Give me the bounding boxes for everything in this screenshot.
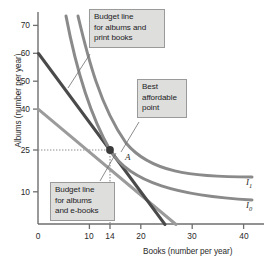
curve-label-i0-sub: 0 bbox=[249, 205, 252, 212]
x-tick-label-0: 0 bbox=[28, 231, 48, 241]
x-tick-label-30: 30 bbox=[182, 231, 202, 241]
callout-best-line3: point bbox=[142, 103, 183, 114]
x-tick-label-14: 14 bbox=[100, 231, 120, 241]
callout-ebooks-line1: Budget line bbox=[55, 185, 111, 196]
callout-print-line2: for albums and bbox=[94, 23, 161, 34]
x-tick-label-40: 40 bbox=[234, 231, 254, 241]
x-tick-label-10: 10 bbox=[79, 231, 99, 241]
leader-print-books bbox=[68, 54, 90, 88]
leader-ebooks bbox=[100, 153, 116, 181]
point-label-a: A bbox=[125, 152, 131, 162]
callout-budget-line-print-books: Budget line for albums and print books bbox=[89, 9, 165, 48]
callout-budget-line-ebooks: Budget line for albums and e-books bbox=[50, 182, 115, 221]
callout-best-line1: Best bbox=[142, 82, 183, 93]
callout-ebooks-line3: and e-books bbox=[55, 206, 111, 217]
callout-print-line1: Budget line bbox=[94, 12, 161, 23]
callout-ebooks-line2: for albums bbox=[55, 196, 111, 207]
callout-best-affordable-point: Best affordable point bbox=[137, 79, 187, 118]
callout-print-line3: print books bbox=[94, 33, 161, 44]
callout-best-line2: affordable bbox=[142, 93, 183, 104]
curve-label-i1: I1 bbox=[246, 177, 252, 189]
curve-label-i0: I0 bbox=[246, 200, 252, 212]
indifference-curve-figure: 70 60 50 40 25 10 0 10 14 20 30 40 Album… bbox=[0, 0, 273, 266]
best-affordable-point-marker bbox=[106, 146, 114, 154]
y-tick-label-70: 70 bbox=[10, 20, 30, 30]
curve-label-i1-sub: 1 bbox=[249, 182, 252, 189]
x-axis-title: Books (number per year) bbox=[143, 247, 232, 256]
y-tick-label-10: 10 bbox=[10, 187, 30, 197]
x-tick-marks bbox=[89, 224, 243, 229]
x-tick-label-20: 20 bbox=[131, 231, 151, 241]
y-axis-title: Albums (number per year) bbox=[14, 31, 23, 171]
